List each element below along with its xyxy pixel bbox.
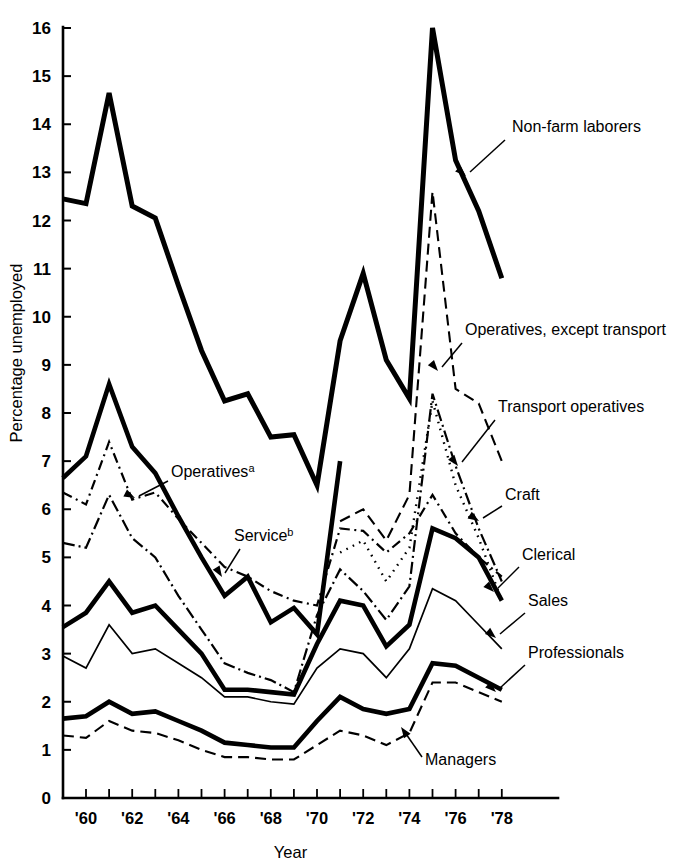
- series-line-service: [63, 442, 502, 606]
- annotation-leader-professionals: [500, 665, 525, 688]
- annotation-craft: Craft: [468, 486, 541, 524]
- annotation-leader-sales: [500, 613, 525, 634]
- y-axis-tick-label: 16: [32, 19, 51, 38]
- y-axis-tick-label: 4: [42, 597, 52, 616]
- x-axis-tick-label: '70: [306, 809, 328, 827]
- x-axis-tick-label: '74: [398, 809, 421, 827]
- y-axis-tick-label: 8: [42, 404, 51, 423]
- series-line-operatives: [63, 384, 340, 634]
- y-axis-tick-label: 14: [32, 115, 51, 134]
- annotation-operatives: Operativesa: [123, 462, 255, 502]
- x-axis-tick-label: '78: [491, 809, 513, 827]
- y-axis-title: Percentage unemployed: [7, 264, 25, 443]
- unemployment-by-occupation-chart: 012345678910111213141516'60'62'64'66'68'…: [0, 0, 698, 865]
- annotation-operatives-except-transport: Operatives, except transport: [428, 321, 667, 374]
- annotation-arrowhead-managers: [398, 725, 411, 739]
- annotation-arrowhead-operatives: [123, 489, 136, 501]
- annotation-arrowhead-transport-operatives: [448, 455, 461, 469]
- x-axis-tick-label: '60: [75, 809, 97, 827]
- annotation-label-craft: Craft: [505, 486, 540, 503]
- annotation-label-non-farm-laborers: Non-farm laborers: [512, 118, 641, 135]
- series-line-clerical: [63, 529, 502, 695]
- y-axis-tick-label: 7: [42, 452, 51, 471]
- y-axis-tick-label: 1: [42, 741, 51, 760]
- annotation-leader-non-farm-laborers: [470, 140, 505, 172]
- series-group: [63, 28, 502, 760]
- y-axis-tick-label: 3: [42, 645, 51, 664]
- annotations-group: Non-farm laborersOperatives, except tran…: [123, 118, 666, 768]
- annotation-professionals: Professionals: [485, 644, 624, 695]
- annotation-label-service: Serviceb: [234, 526, 293, 544]
- y-axis-tick-label: 6: [42, 500, 51, 519]
- annotation-superscript-service: b: [287, 526, 293, 538]
- y-axis-tick-label: 0: [42, 789, 51, 808]
- y-axis-tick-label: 11: [33, 260, 51, 279]
- x-axis-tick-label: '64: [167, 809, 190, 827]
- annotation-transport-operatives: Transport operatives: [448, 398, 644, 468]
- y-axis-tick-label: 15: [32, 67, 51, 86]
- annotation-leader-craft: [483, 506, 502, 518]
- annotation-managers: Managers: [398, 725, 496, 768]
- annotation-leader-operatives-except-transport: [442, 343, 462, 367]
- annotation-label-operatives-except-transport: Operatives, except transport: [465, 321, 667, 338]
- annotation-service: Serviceb: [213, 526, 294, 579]
- y-axis-tick-label: 12: [32, 212, 51, 231]
- series-line-professionals: [63, 663, 502, 747]
- annotation-leader-transport-operatives: [462, 420, 495, 462]
- annotation-label-professionals: Professionals: [528, 644, 624, 661]
- x-axis-tick-label: '72: [352, 809, 374, 827]
- annotation-arrowhead-operatives-except-transport: [428, 360, 441, 374]
- annotation-label-sales: Sales: [528, 592, 568, 609]
- y-axis-tick-label: 10: [32, 308, 51, 327]
- chart-canvas: 012345678910111213141516'60'62'64'66'68'…: [0, 0, 698, 865]
- y-axis-tick-label: 2: [42, 693, 51, 712]
- x-axis-tick-label: '62: [121, 809, 143, 827]
- y-axis-tick-label: 5: [42, 548, 51, 567]
- x-axis-tick-label: '68: [260, 809, 282, 827]
- annotation-label-clerical: Clerical: [522, 546, 575, 563]
- y-axis-tick-label: 13: [32, 163, 51, 182]
- x-axis-tick-label: '76: [444, 809, 466, 827]
- annotation-superscript-operatives: a: [248, 462, 255, 474]
- x-axis-title: Year: [274, 843, 308, 861]
- x-axis-tick-label: '66: [213, 809, 235, 827]
- annotation-non-farm-laborers: Non-farm laborers: [455, 118, 641, 179]
- annotation-label-operatives: Operativesa: [171, 462, 255, 480]
- annotation-label-transport-operatives: Transport operatives: [498, 398, 644, 415]
- y-axis-tick-label: 9: [42, 356, 51, 375]
- annotation-label-managers: Managers: [425, 751, 496, 768]
- annotation-sales: Sales: [485, 592, 568, 641]
